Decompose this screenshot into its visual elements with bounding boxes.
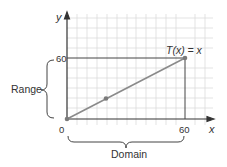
function-line bbox=[67, 58, 185, 119]
origin-label: 0 bbox=[59, 124, 64, 135]
y-axis-label: y bbox=[55, 11, 63, 23]
x-tick-60: 60 bbox=[179, 124, 190, 135]
domain-label: Domain bbox=[111, 148, 147, 160]
point-mid bbox=[104, 96, 109, 101]
point-origin bbox=[65, 117, 70, 122]
range-label: Range bbox=[11, 83, 42, 95]
x-axis-label: x bbox=[208, 123, 215, 135]
chart-canvas: y x T(x) = x 60 0 60 Range Domain bbox=[0, 0, 227, 167]
y-tick-60: 60 bbox=[56, 53, 67, 64]
point-end bbox=[183, 56, 188, 61]
function-label: T(x) = x bbox=[166, 44, 203, 56]
domain-brace bbox=[68, 136, 184, 148]
range-brace bbox=[41, 60, 54, 118]
